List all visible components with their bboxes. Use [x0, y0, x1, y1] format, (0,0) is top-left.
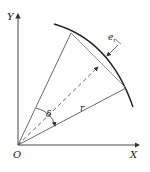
error-arrow: [107, 45, 118, 56]
radius-lower: [18, 88, 126, 145]
error-tick: [116, 40, 121, 44]
bisector-dashed: [18, 67, 98, 145]
angle-label: δ: [46, 109, 51, 119]
radius-label: r: [80, 103, 85, 113]
origin-label: O: [13, 149, 21, 160]
arc: [54, 24, 133, 107]
error-label: er: [108, 32, 117, 43]
y-axis-label: Y: [7, 11, 15, 22]
arc-error-diagram: Y X O δ r er: [0, 0, 150, 172]
radius-upper: [18, 33, 71, 145]
x-axis-label: X: [129, 149, 138, 160]
